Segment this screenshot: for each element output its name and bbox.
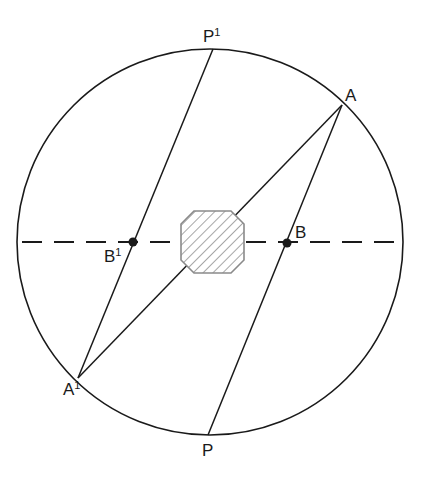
label-b: B [295, 223, 306, 242]
geometry-diagram: P1 A A1 P B B1 [0, 0, 423, 478]
hatched-octagon-fill [181, 211, 244, 273]
label-b1: B1 [104, 246, 121, 266]
label-a: A [345, 86, 357, 105]
label-p: P [202, 441, 213, 460]
label-p1: P1 [203, 26, 220, 46]
point-b [283, 239, 292, 248]
label-a1: A1 [63, 379, 80, 399]
point-b1 [129, 238, 138, 247]
